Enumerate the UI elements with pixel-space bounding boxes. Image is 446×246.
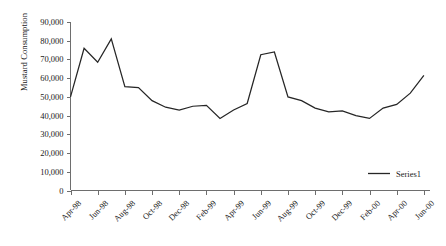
y-tick-label-group: 90,00080,00070,00060,00050,00040,00030,0…: [40, 17, 63, 196]
y-tick-label: 50,000: [40, 92, 63, 102]
y-tick-label: 80,000: [40, 36, 63, 46]
y-tick-label: 20,000: [40, 148, 63, 158]
y-tick-label: 90,000: [40, 17, 63, 27]
y-tick-label: 70,000: [40, 54, 63, 64]
y-tick-label: 10,000: [40, 167, 63, 177]
y-tick-label: 0: [59, 186, 63, 196]
line-chart: Mustard Consumption 90,00080,00070,00060…: [0, 0, 446, 246]
plot-area: 90,00080,00070,00060,00050,00040,00030,0…: [0, 0, 446, 246]
y-tick-label: 30,000: [40, 129, 63, 139]
y-tick-label: 60,000: [40, 73, 63, 83]
y-tick-mark-group: [67, 23, 71, 192]
x-tick-mark-group: [72, 191, 425, 195]
legend-label-series1: Series1: [396, 169, 421, 179]
y-tick-label: 40,000: [40, 111, 63, 121]
series-line-series1: [71, 39, 424, 119]
